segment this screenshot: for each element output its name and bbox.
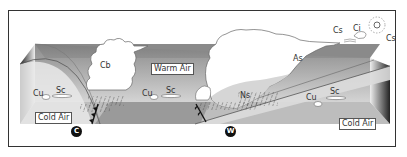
warm-front-marker: W — [225, 126, 236, 137]
label-cs-top: Cs — [333, 27, 343, 35]
label-sc-mid: Sc — [166, 87, 175, 95]
cold-front-marker: C — [71, 126, 82, 137]
label-ci: Ci — [353, 25, 361, 33]
stratocumulus-right — [326, 96, 346, 99]
cumulus-right — [314, 102, 322, 107]
sun-icon — [374, 22, 380, 28]
label-cu-left: Cu — [33, 90, 44, 98]
label-sc-right: Sc — [330, 88, 339, 96]
label-cb: Cb — [100, 62, 111, 70]
label-as: As — [293, 55, 303, 63]
label-cu-right: Cu — [306, 94, 317, 102]
label-warm-air: Warm Air — [151, 63, 194, 75]
label-cs-sun: Cs — [386, 35, 396, 43]
label-cu-mid: Cu — [142, 90, 153, 98]
label-cold-air-left: Cold Air — [35, 112, 72, 124]
label-sc-left: Sc — [56, 87, 65, 95]
frontal-system-illustration — [0, 0, 407, 157]
label-cold-air-right: Cold Air — [339, 118, 376, 130]
label-ns: Ns — [240, 92, 250, 100]
